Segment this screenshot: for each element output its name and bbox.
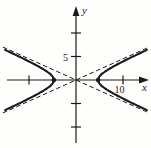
vertex-dot-right (96, 78, 101, 83)
y-tick-label-5: 5 (63, 52, 68, 63)
y-axis-label: y (81, 4, 87, 16)
x-tick-label-10: 10 (115, 84, 125, 95)
x-axis-label: x (141, 81, 147, 93)
y-axis-arrowhead-icon (73, 6, 80, 16)
hyperbola-figure: y x 5 10 (0, 0, 151, 148)
vertex-dot-left (52, 78, 57, 83)
plot-canvas: y x 5 10 (0, 0, 151, 148)
